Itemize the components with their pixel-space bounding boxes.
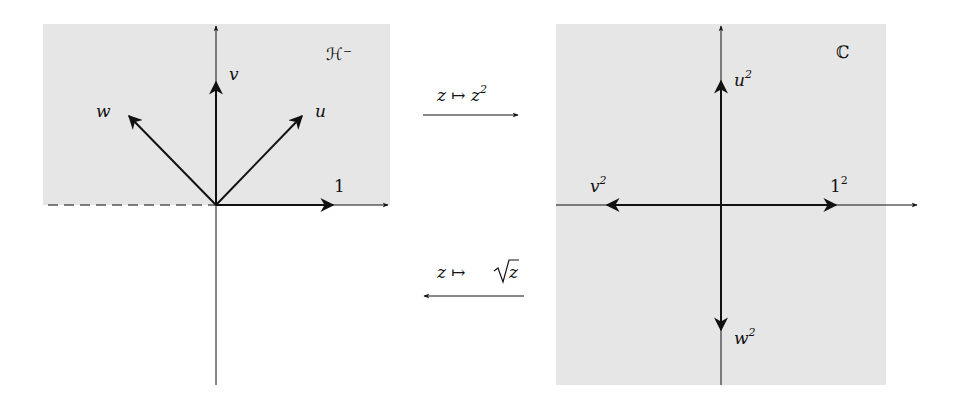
diagram-canvas: ℋ⁻ v u w 1 z ↦ z2 z ↦ z ℂ u2 v2 12 w2: [0, 0, 958, 412]
map-inverse-label: z ↦: [436, 262, 466, 282]
region-label-H-minus: ℋ⁻: [326, 44, 352, 64]
map-forward: z ↦ z2: [423, 83, 518, 115]
right-plane: ℂ u2 v2 12 w2: [556, 24, 917, 385]
label-one: 1: [334, 176, 345, 196]
map-inverse: z ↦ z: [424, 260, 524, 296]
label-w: w: [96, 101, 111, 121]
left-plane: ℋ⁻ v u w 1: [43, 24, 390, 385]
map-forward-label: z ↦ z2: [436, 83, 487, 105]
region-label-C: ℂ: [836, 42, 850, 62]
label-u: u: [315, 101, 326, 121]
label-v: v: [229, 64, 239, 84]
sqrt-argument: z: [508, 262, 519, 282]
